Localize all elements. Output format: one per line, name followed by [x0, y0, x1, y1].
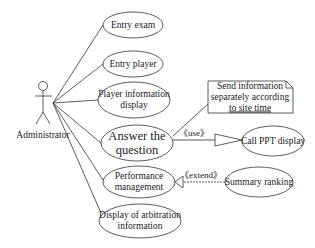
- use-stereotype-label: 《use》: [179, 126, 209, 139]
- assoc-player-info: [53, 100, 98, 103]
- label-line: Display of arbitration: [99, 210, 181, 221]
- label-line: Answer the: [108, 129, 165, 143]
- label-line: Performance: [115, 171, 164, 182]
- label-line: Player information: [98, 89, 170, 100]
- actor-right-leg: [43, 112, 50, 124]
- label-line: display: [98, 100, 170, 111]
- assoc-entry-exam: [53, 25, 103, 103]
- label-line: information: [99, 221, 181, 232]
- note-line: separately according: [211, 92, 289, 103]
- actor-head: [39, 82, 48, 91]
- label-line: management: [115, 182, 164, 193]
- usecase-answer-label: Answer the question: [108, 129, 165, 157]
- label-line: question: [108, 143, 165, 157]
- usecase-entry-exam-label: Entry exam: [111, 20, 155, 31]
- use-arrowhead: [215, 134, 242, 146]
- extend-stereotype-label: 《extend》: [180, 168, 222, 181]
- assoc-performance: [53, 103, 103, 180]
- assoc-entry-player: [53, 64, 103, 103]
- usecase-entry-player-label: Entry player: [109, 59, 156, 70]
- usecase-player-info-label: Player information display: [98, 89, 170, 111]
- usecase-arbitration-label: Display of arbitration information: [99, 210, 181, 232]
- note-line: to site time: [211, 103, 289, 114]
- actor-label: Administrator: [16, 130, 69, 141]
- note-text: Send information separately according to…: [211, 81, 289, 114]
- usecase-call-ppt-label: Call PPT display: [241, 136, 305, 147]
- note-line: Send information: [211, 81, 289, 92]
- usecase-performance-label: Performance management: [115, 171, 164, 193]
- usecase-summary-label: Summary ranking: [225, 177, 293, 188]
- actor-left-leg: [36, 112, 43, 124]
- assoc-arbitration: [53, 103, 101, 213]
